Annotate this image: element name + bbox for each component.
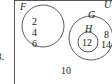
set-f-circle (22, 5, 64, 47)
set-h-label: H (84, 23, 93, 34)
set-g-element: 14 (101, 39, 111, 50)
set-f-element: 2 (32, 16, 37, 27)
venn-diagram: U F 2 4 6 G 8 14 H 12 10 (0, 0, 112, 84)
set-h-element: 12 (82, 37, 92, 48)
set-f-element: 4 (32, 27, 37, 38)
set-f-element: 6 (32, 38, 37, 49)
set-f-label: F (19, 1, 27, 12)
universal-set-label: U (104, 0, 112, 10)
outside-element: 10 (61, 65, 71, 76)
set-g-label: G (88, 9, 95, 20)
